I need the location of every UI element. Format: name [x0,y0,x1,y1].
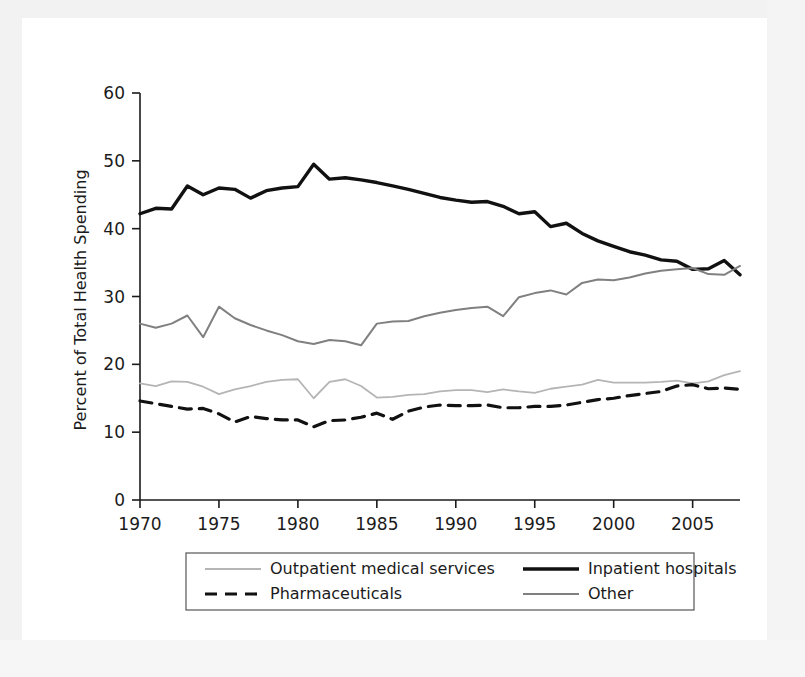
page-background: Percent of Total Health Spending 6050403… [0,0,805,677]
x-tick-label: 1975 [197,514,240,534]
y-tick-label: 0 [114,490,125,510]
line-chart: Percent of Total Health Spending 6050403… [0,0,805,677]
legend-label-pharmaceuticals: Pharmaceuticals [270,584,402,603]
x-tick-label: 2000 [592,514,635,534]
x-axis-ticks: 19701975198019851990199520002005 [118,500,714,534]
x-tick-label: 1980 [276,514,319,534]
series-line-inpatient-hospitals [140,164,740,275]
legend-label-inpatient-hospitals: Inpatient hospitals [588,559,737,578]
x-tick-label: 1970 [118,514,161,534]
x-tick-label: 2005 [671,514,714,534]
x-tick-label: 1990 [434,514,477,534]
x-tick-label: 1995 [513,514,556,534]
y-tick-label: 10 [103,422,125,442]
y-tick-label: 30 [103,287,125,307]
x-tick-label: 1985 [355,514,398,534]
y-axis-title: Percent of Total Health Spending [71,169,90,430]
y-tick-label: 20 [103,354,125,374]
y-tick-label: 40 [103,219,125,239]
legend-label-outpatient-medical-services: Outpatient medical services [270,559,495,578]
legend: Outpatient medical servicesInpatient hos… [205,559,737,603]
y-tick-label: 50 [103,151,125,171]
series-line-other [140,266,740,345]
chart-canvas: Percent of Total Health Spending 6050403… [0,0,805,677]
y-tick-label: 60 [103,83,125,103]
data-series-group [140,164,740,427]
y-axis-ticks: 6050403020100 [103,83,140,510]
legend-label-other: Other [588,584,634,603]
